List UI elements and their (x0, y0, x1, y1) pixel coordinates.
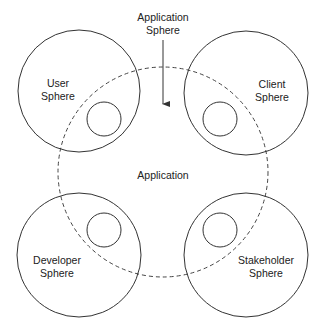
developer-sphere-label: Developer Sphere (33, 254, 81, 280)
user-sphere-circle (18, 30, 140, 152)
diagram-canvas (0, 0, 322, 332)
stakeholder-inner-circle (203, 213, 237, 247)
stakeholder-sphere-label: Stakeholder Sphere (238, 254, 294, 280)
client-inner-circle (203, 102, 237, 136)
client-sphere-label: Client Sphere (255, 78, 289, 104)
user-sphere-label: User Sphere (41, 77, 75, 103)
application-sphere-label: Application Sphere (137, 11, 188, 37)
user-inner-circle (87, 102, 121, 136)
developer-inner-circle (87, 213, 121, 247)
client-sphere-circle (184, 31, 308, 155)
application-center-label: Application (137, 169, 188, 182)
